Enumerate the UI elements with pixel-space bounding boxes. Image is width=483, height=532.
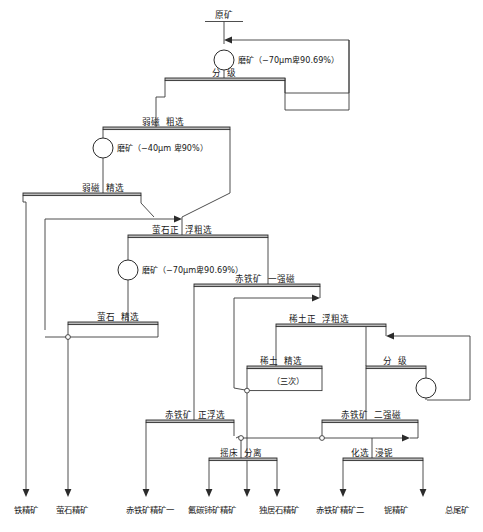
leach-nb-label-right: 浸铌 (375, 447, 393, 458)
product-label-iron: 铁精矿 (14, 505, 38, 515)
arrow-prod-iron (23, 489, 30, 497)
mill-3-label: 磨矿（−70μm卑90.69%） (142, 265, 243, 275)
classify1-return-arrowhead (224, 37, 232, 44)
hem-float-label-right: 正浮选 (198, 409, 225, 420)
mill-2-symbol (93, 138, 113, 158)
fluorite-clean-label-right: 精选 (121, 311, 139, 322)
arrow-prod-fluorite (65, 489, 72, 497)
classify-1-label-right: 级 (227, 67, 236, 78)
hims-2-junction-dot (320, 436, 325, 441)
classify-1-outlets (165, 40, 349, 110)
re-clean-label-right: 精选 (284, 355, 302, 366)
classify-2-label-right: 级 (398, 355, 407, 366)
product-label-fluorite: 萤石精矿 (56, 505, 88, 515)
product-label-monazite: 独居石精矿 (259, 505, 299, 515)
classify-1-label-left: 分 (212, 68, 221, 78)
re-clean-sub-label: （三次） (272, 376, 304, 386)
re-rough-label-right: 浮粗选 (322, 313, 349, 324)
table-feed-junction-dot (239, 436, 244, 441)
hims-2-label-left: 赤铁矿 (341, 409, 368, 420)
product-label-hematite-1: 赤铁矿精矿一 (126, 505, 175, 515)
fluorite-rough-label-right: 浮粗选 (185, 224, 212, 235)
lims-clean-tail-out (141, 196, 154, 217)
hem-float-label-left: 赤铁矿 (165, 409, 192, 420)
mill-4-symbol (416, 378, 436, 398)
arrow-prod-hematite-2 (244, 489, 251, 497)
process-flow-diagram: 原矿 磨矿（−70μm卑90.69%） 磨矿（−40μm 卑90%） 磨矿（−7… (0, 0, 483, 532)
arrow-prod-tailings (420, 489, 427, 497)
lims-clean-label-left: 弱磁 (82, 182, 100, 193)
product-label-niobium: 铌精矿 (384, 505, 408, 515)
mill-3-symbol (118, 260, 138, 280)
mill-2-label: 磨矿（−40μm 卑90%） (117, 143, 208, 153)
classify-2-label-left: 分 (383, 356, 392, 366)
fluorite-clean-label-left: 萤石 (97, 311, 115, 322)
shaking-table-label-left: 摇床 (220, 447, 238, 458)
arrow-prod-bastnas (206, 489, 213, 497)
re-rough-label-left: 稀土正 (289, 313, 316, 324)
fluorite-rough-label-left: 萤石正 (152, 224, 179, 235)
product-label-bastnas: 氟碳铈矿精矿 (188, 505, 236, 515)
classify1-oversize-return (285, 40, 349, 93)
lims-rough-label-left: 弱磁 (142, 116, 160, 127)
hims-1-label-right: 一强磁 (268, 273, 295, 284)
arrow-prod-monazite (274, 489, 281, 497)
tailing-transfer-arrowhead (402, 435, 410, 442)
arrow-prod-hematite-1 (143, 489, 150, 497)
feed-label: 原矿 (215, 9, 233, 20)
lims-rough-label-right: 粗选 (166, 116, 184, 127)
arrow-prod-niobium (340, 489, 347, 497)
re-feed-arrowhead (312, 295, 320, 302)
re-clean-junction-dot (245, 388, 250, 393)
fluorite-clean-outlets (68, 325, 158, 337)
product-label-tailings: 总尾矿 (445, 505, 469, 515)
hims-1-label-left: 赤铁矿 (235, 273, 262, 284)
lims-clean-label-right: 精选 (106, 182, 124, 193)
classify2-return-arrowhead (386, 333, 394, 340)
fluorite-return-arrowhead (174, 216, 182, 223)
re-clean-label-left: 稀土 (260, 355, 278, 366)
product-label-hematite-2: 赤铁矿精矿二 (316, 505, 364, 515)
iron-concentrate-stream (23, 196, 26, 490)
re-clean-tail-link (234, 388, 245, 390)
shaking-table-label-right: 分离 (244, 447, 262, 458)
hims-2-label-right: 二强磁 (374, 409, 401, 420)
leach-nb-label-left: 化选 (351, 447, 369, 458)
mill-1-label: 磨矿（−70μm卑90.69%） (238, 55, 339, 65)
fluorite-junction-dot (66, 335, 71, 340)
